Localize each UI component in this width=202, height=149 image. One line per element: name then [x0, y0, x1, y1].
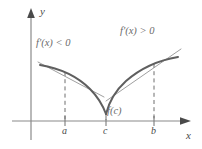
x-tick-label-b: b	[151, 126, 156, 136]
x-axis-arrow-icon	[180, 117, 191, 125]
y-axis-label: y	[40, 6, 45, 17]
x-tick-label-c: c	[103, 126, 107, 136]
tangent-line-right	[106, 49, 181, 101]
annotation-cusp-value: f(c)	[107, 106, 122, 117]
y-axis	[27, 8, 35, 140]
figure-canvas	[0, 0, 202, 149]
x-axis	[12, 117, 191, 125]
figure-cusp-derivative-diagram: y x a c b f'(x) < 0 f'(x) > 0 f(c)	[0, 0, 202, 149]
tangent-lines	[38, 49, 181, 101]
curve-left-branch	[40, 65, 106, 114]
x-tick-label-a: a	[62, 126, 67, 136]
y-axis-arrow-icon	[27, 8, 35, 18]
x-axis-label: x	[186, 130, 191, 141]
annotation-derivative-negative: f'(x) < 0	[36, 38, 70, 49]
annotation-derivative-positive: f'(x) > 0	[120, 26, 154, 37]
